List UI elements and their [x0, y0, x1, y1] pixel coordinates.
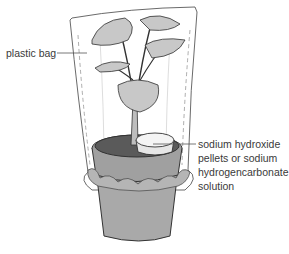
label-line-1: sodium hydroxide — [198, 137, 289, 151]
label-line-3: hydrogencarbonate — [198, 165, 289, 179]
label-plastic-bag: plastic bag — [6, 46, 56, 60]
label-sodium-hydroxide: sodium hydroxide pellets or sodium hydro… — [198, 137, 289, 193]
label-line-4: solution — [198, 179, 289, 193]
label-line-2: pellets or sodium — [198, 151, 289, 165]
experiment-diagram — [0, 0, 289, 254]
